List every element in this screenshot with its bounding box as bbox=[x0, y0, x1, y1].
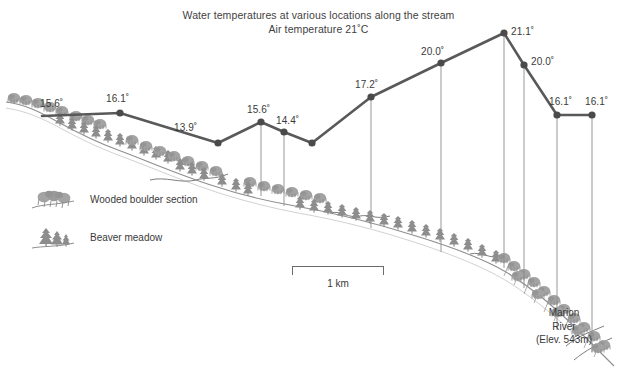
river-label: Marion River (Elev. 543m) bbox=[516, 306, 612, 347]
legend-label: Wooded boulder section bbox=[90, 194, 198, 205]
boulder-cluster-icon bbox=[30, 188, 78, 214]
data-point-marker[interactable] bbox=[308, 139, 315, 146]
data-point-label: 14.4˚ bbox=[276, 115, 299, 126]
data-point-label: 20.0˚ bbox=[421, 46, 444, 57]
data-point-label: 16.1˚ bbox=[549, 96, 572, 107]
data-point-label: 15.6˚ bbox=[247, 104, 270, 115]
data-point-marker[interactable] bbox=[280, 128, 287, 135]
data-point-marker[interactable] bbox=[553, 111, 560, 118]
scale-bar: 1 km bbox=[292, 266, 384, 289]
data-point-label: 15.6˚ bbox=[40, 98, 63, 109]
data-point-marker[interactable] bbox=[520, 61, 527, 68]
river-type: River bbox=[516, 320, 612, 334]
river-elevation: (Elev. 543m) bbox=[516, 333, 612, 347]
legend-item-beaver-meadow: Beaver meadow bbox=[30, 226, 230, 256]
data-point-marker[interactable] bbox=[214, 139, 221, 146]
data-point-marker[interactable] bbox=[500, 29, 507, 36]
data-point-label: 13.9˚ bbox=[174, 122, 197, 133]
temperature-line bbox=[42, 33, 592, 143]
data-point-marker[interactable] bbox=[588, 111, 595, 118]
legend-item-wooded-boulder-section: Wooded boulder section bbox=[30, 188, 230, 218]
dropline-group bbox=[261, 33, 592, 352]
river-name: Marion bbox=[516, 306, 612, 320]
legend-label: Beaver meadow bbox=[90, 232, 162, 243]
data-point-marker[interactable] bbox=[116, 109, 123, 116]
data-point-label: 16.1˚ bbox=[585, 96, 608, 107]
data-point-label: 16.1˚ bbox=[106, 93, 129, 104]
data-point-label: 21.1˚ bbox=[511, 26, 534, 37]
data-point-label: 20.0˚ bbox=[531, 56, 554, 67]
data-point-marker[interactable] bbox=[437, 59, 444, 66]
data-point-marker[interactable] bbox=[367, 93, 374, 100]
stream-temperature-figure: Water temperatures at various locations … bbox=[0, 0, 637, 376]
scale-bar-line bbox=[292, 266, 384, 267]
conifer-cluster-icon bbox=[30, 226, 78, 252]
data-point-label: 17.2˚ bbox=[355, 79, 378, 90]
data-point-marker[interactable] bbox=[257, 118, 264, 125]
scale-bar-ticks bbox=[292, 266, 384, 276]
legend: Wooded boulder section Beaver meadow bbox=[30, 188, 230, 264]
scale-bar-label: 1 km bbox=[292, 278, 384, 289]
